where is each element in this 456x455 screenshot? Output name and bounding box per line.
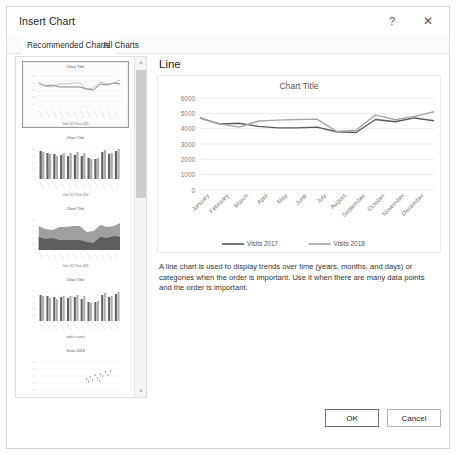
- preview-chart: Chart Title 0100020003000400050006000Jan…: [157, 75, 441, 253]
- thumbnail-line-chart-icon: [25, 70, 126, 122]
- title-bar: Insert Chart ? ✕: [7, 7, 449, 35]
- svg-text:5000: 5000: [181, 110, 196, 117]
- svg-text:May: May: [275, 191, 289, 205]
- chart-thumbnail-column-2[interactable]: Chart Title: [22, 274, 129, 341]
- thumbnail-column-chart-icon: [25, 141, 126, 193]
- page-title: Insert Chart: [19, 15, 75, 27]
- svg-text:July: July: [315, 191, 328, 204]
- thumbnail-area-chart-icon: [25, 212, 126, 264]
- svg-text:0: 0: [191, 187, 195, 194]
- chevron-down-icon[interactable]: ˅: [135, 385, 147, 397]
- chart-thumbnail-scatter[interactable]: Visits 2018: [22, 345, 129, 397]
- close-icon[interactable]: ✕: [417, 11, 439, 31]
- chart-thumbnail-column-1[interactable]: Chart Title: [22, 132, 129, 199]
- chart-thumbnail-area[interactable]: Chart Title: [22, 203, 129, 270]
- tab-all-charts[interactable]: All Charts: [97, 36, 145, 53]
- svg-text:2000: 2000: [181, 156, 196, 163]
- cancel-button[interactable]: Cancel: [387, 409, 441, 427]
- svg-text:Visits 2017: Visits 2017: [247, 240, 279, 247]
- svg-text:3000: 3000: [181, 141, 196, 148]
- thumbnail-scrollbar[interactable]: ˄ ˅: [134, 57, 146, 397]
- ok-button[interactable]: OK: [325, 409, 379, 427]
- svg-text:February: February: [207, 191, 230, 214]
- thumbnail-legend: Visits 2017 Visits 2018: [25, 264, 126, 269]
- svg-text:Visits 2018: Visits 2018: [334, 240, 366, 247]
- thumbnail-legend: product country: [25, 335, 126, 340]
- dialog-body: Chart Title: [7, 54, 449, 400]
- chart-thumbnail-line[interactable]: Chart Title: [22, 61, 129, 128]
- svg-text:4000: 4000: [181, 125, 196, 132]
- chevron-up-icon[interactable]: ˄: [135, 57, 147, 69]
- chart-description: A line chart is used to display trends o…: [159, 262, 439, 294]
- thumbnail-legend: Visits 2017 Visits 2018: [25, 193, 126, 198]
- dialog-footer: OK Cancel: [7, 400, 449, 448]
- insert-chart-dialog: Insert Chart ? ✕ Recommended Charts All …: [6, 6, 450, 449]
- preview-heading: Line: [159, 58, 441, 70]
- tab-strip: Recommended Charts All Charts: [7, 35, 449, 54]
- thumbnail-column-chart-icon: [25, 283, 126, 335]
- svg-text:April: April: [255, 192, 269, 206]
- svg-text:March: March: [232, 191, 250, 209]
- scrollbar-thumb[interactable]: [136, 70, 146, 198]
- svg-text:June: June: [294, 191, 309, 206]
- recommended-charts-list: Chart Title: [15, 56, 147, 398]
- thumbnail-legend: Visits 2017 Visits 2018: [25, 122, 126, 127]
- chart-preview-pane: Line Chart Title 01000200030004000500060…: [157, 56, 441, 398]
- help-icon[interactable]: ?: [381, 11, 403, 31]
- thumbnail-scatter-chart-icon: [25, 354, 126, 397]
- svg-text:August: August: [328, 192, 347, 211]
- svg-text:6000: 6000: [181, 95, 196, 102]
- line-chart-graphic: 0100020003000400050006000JanuaryFebruary…: [158, 76, 446, 252]
- thumbnail-container: Chart Title: [16, 57, 134, 397]
- svg-text:1000: 1000: [181, 171, 196, 178]
